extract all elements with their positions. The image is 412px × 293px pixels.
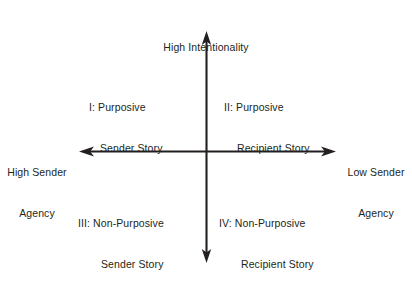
axis-label-high-sender-agency-line2: Agency bbox=[0, 207, 74, 221]
quadrant-label-iii-line2: Sender Story bbox=[78, 258, 164, 272]
quadrant-label-iii: III: Non-Purposive Sender Story bbox=[78, 190, 164, 293]
quadrant-label-iv-line2: Recipient Story bbox=[219, 258, 314, 272]
quadrant-diagram: High Intentionality Low Intentionality H… bbox=[0, 0, 412, 293]
quadrant-label-i-line2: Sender Story bbox=[89, 142, 162, 156]
quadrant-label-iv-line1: IV: Non-Purposive bbox=[219, 217, 314, 231]
axis-label-high-sender-agency-line1: High Sender bbox=[0, 166, 74, 180]
quadrant-label-ii: II: Purposive Recipient Story bbox=[224, 74, 310, 182]
quadrant-label-iv: IV: Non-Purposive Recipient Story bbox=[219, 190, 314, 293]
quadrant-label-ii-line1: II: Purposive bbox=[224, 101, 310, 115]
axis-label-low-sender-agency-line1: Low Sender bbox=[340, 166, 412, 180]
axis-label-low-sender-agency-line2: Agency bbox=[340, 207, 412, 221]
axis-label-high-intentionality: High Intentionality bbox=[0, 14, 412, 82]
quadrant-label-i: I: Purposive Sender Story bbox=[89, 74, 162, 182]
axis-label-low-sender-agency: Low Sender Agency bbox=[340, 139, 412, 247]
quadrant-label-ii-line2: Recipient Story bbox=[224, 142, 310, 156]
axis-label-high-intentionality-text: High Intentionality bbox=[0, 41, 412, 55]
quadrant-label-iii-line1: III: Non-Purposive bbox=[78, 217, 164, 231]
quadrant-label-i-line1: I: Purposive bbox=[89, 101, 162, 115]
axis-label-high-sender-agency: High Sender Agency bbox=[0, 139, 74, 247]
axis-label-low-intentionality: Low Intentionality bbox=[0, 266, 412, 293]
